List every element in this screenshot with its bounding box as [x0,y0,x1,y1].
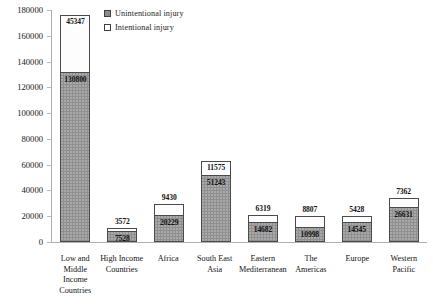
data-label-unintentional: 130800 [64,76,86,84]
y-axis-tick-180000: 180000 [17,5,43,15]
bar-segment-intentional[interactable]: 5428 [342,216,372,223]
bar-segment-unintentional[interactable]: 7528 [107,232,137,242]
x-axis-label-europe: Europe [334,254,380,296]
bar-segment-unintentional[interactable]: 20229 [154,216,184,242]
bar-segment-intentional[interactable]: 7362 [389,198,419,207]
y-axis-tick-80000: 80000 [22,134,43,144]
data-label-unintentional: 51243 [207,179,226,187]
y-axis-tick-160000: 160000 [17,31,43,41]
data-label-intentional: 3572 [114,218,131,226]
x-axis-label-low-and-middle-income-countries: Low andMiddleIncomeCountries [52,254,98,296]
y-axis-tick-20000: 20000 [22,211,43,221]
bar-segment-unintentional[interactable]: 10998 [295,228,325,242]
bar-stack[interactable]: 943020229 [154,204,184,242]
data-label-intentional: 5428 [348,206,365,214]
y-axis-tick-140000: 140000 [17,57,43,67]
bar-segment-unintentional[interactable]: 130800 [60,73,90,242]
data-label-intentional: 6319 [255,205,272,213]
bar-group-europe[interactable]: 542814545 [333,10,380,242]
bar-segment-intentional[interactable]: 45347 [60,15,90,73]
bar-stack[interactable]: 542814545 [342,216,372,242]
data-label-unintentional: 14545 [347,226,366,234]
bar-group-high-income-countries[interactable]: 35727528 [99,10,146,242]
x-axis-label-high-income-countries: High IncomeCountries [98,254,144,296]
bar-stack[interactable]: 45347130800 [60,15,90,242]
y-axis-tick-120000: 120000 [17,82,43,92]
bar-stack[interactable]: 35727528 [107,228,137,242]
data-label-unintentional: 20229 [160,219,179,227]
y-axis-tick-100000: 100000 [17,108,43,118]
bar-group-low-and-middle-income-countries[interactable]: 45347130800 [52,10,99,242]
y-axis-tick-60000: 60000 [22,160,43,170]
data-label-intentional: 11575 [206,164,226,172]
bar-segment-intentional[interactable]: 9430 [154,204,184,216]
bar-segment-unintentional[interactable]: 14545 [342,223,372,242]
bar-segment-intentional[interactable]: 11575 [201,161,231,176]
bar-segment-intentional[interactable]: 8807 [295,216,325,227]
bar-group-south-east-asia[interactable]: 1157551243 [193,10,240,242]
y-axis-tick-labels: 1800001600001400001200001000008000060000… [0,10,47,242]
bar-group-africa[interactable]: 943020229 [146,10,193,242]
bar-segment-unintentional[interactable]: 14682 [248,223,278,242]
data-label-unintentional: 26631 [394,211,413,219]
bar-group-eastern-mediterranean[interactable]: 631914682 [240,10,287,242]
bar-stack[interactable]: 631914682 [248,215,278,242]
bar-segment-unintentional[interactable]: 26631 [389,208,419,242]
y-axis-tick-0: 0 [39,237,43,247]
bar-stack[interactable]: 1157551243 [201,161,231,242]
bar-stack[interactable]: 880710998 [295,216,325,242]
bar-group-western-pacific[interactable]: 736226631 [380,10,427,242]
bar-stack[interactable]: 736226631 [389,198,419,242]
x-axis-line [51,242,427,243]
x-axis-label-south-east-asia: South EastAsia [191,254,237,296]
x-axis-label-the-americas: TheAmericas [288,254,334,296]
data-label-intentional: 9430 [161,194,178,202]
bar-segment-unintentional[interactable]: 51243 [201,176,231,242]
data-label-intentional: 45347 [65,18,86,26]
bar-group-the-americas[interactable]: 880710998 [286,10,333,242]
data-label-intentional: 8807 [301,206,318,214]
chart-plot-area: 1800001600001400001200001000008000060000… [0,10,433,260]
data-label-unintentional: 7528 [115,235,130,243]
bar-series-container: 4534713080035727528943020229115755124363… [52,10,427,242]
y-axis-tick-40000: 40000 [22,185,43,195]
x-axis-label-africa: Africa [145,254,191,296]
data-label-unintentional: 10998 [301,231,320,239]
data-label-intentional: 7362 [395,188,412,196]
data-label-unintentional: 14682 [254,226,273,234]
x-axis-category-labels: Low andMiddleIncomeCountriesHigh IncomeC… [52,254,427,296]
x-axis-label-eastern-mediterranean: EasternMediterranean [238,254,288,296]
x-axis-label-western-pacific: WesternPacific [381,254,427,296]
bar-segment-intentional[interactable]: 6319 [248,215,278,223]
